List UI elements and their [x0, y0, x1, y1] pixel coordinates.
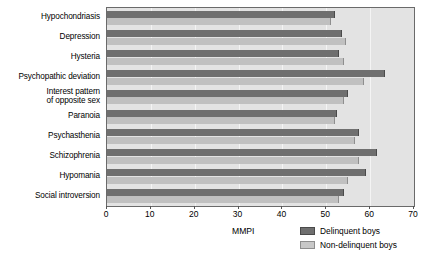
x-tick-label: 10 — [138, 209, 162, 220]
x-axis: 010203040506070 — [106, 206, 414, 222]
bar-non-delinquent — [107, 196, 339, 203]
category-label: Depression — [60, 32, 100, 41]
bar-non-delinquent — [107, 117, 335, 124]
x-tick-label: 20 — [182, 209, 206, 220]
bar-non-delinquent — [107, 177, 348, 184]
legend-swatch-icon — [300, 241, 315, 249]
bar-delinquent — [107, 11, 335, 18]
x-axis-title: MMPI — [232, 226, 254, 236]
legend-item: Delinquent boys — [300, 224, 425, 238]
category-label: Social introversion — [35, 191, 100, 200]
bar-delinquent — [107, 90, 348, 97]
mmpi-bar-chart: HypochondriasisDepressionHysteriaPsychop… — [0, 0, 425, 259]
category-label: Hypochondriasis — [41, 12, 100, 21]
bar-delinquent — [107, 169, 366, 176]
plot-area — [106, 7, 415, 207]
bar-non-delinquent — [107, 157, 359, 164]
category-label: Hysteria — [71, 52, 100, 61]
bar-non-delinquent — [107, 58, 344, 65]
bar-non-delinquent — [107, 137, 355, 144]
legend-swatch-icon — [300, 227, 315, 235]
category-axis-labels: HypochondriasisDepressionHysteriaPsychop… — [0, 7, 103, 205]
x-tick-label: 50 — [313, 209, 337, 220]
legend-label: Non-delinquent boys — [320, 240, 397, 250]
bar-delinquent — [107, 50, 339, 57]
x-tick-label: 60 — [357, 209, 381, 220]
legend-label: Delinquent boys — [320, 226, 380, 236]
category-label: Paranoia — [68, 111, 100, 120]
bar-delinquent — [107, 189, 344, 196]
bar-delinquent — [107, 70, 385, 77]
x-tick-label: 0 — [94, 209, 118, 220]
category-label: Schizophrenia — [49, 151, 100, 160]
x-tick-label: 40 — [269, 209, 293, 220]
category-label: Psychopathic deviation — [18, 72, 100, 81]
bar-delinquent — [107, 149, 377, 156]
bar-non-delinquent — [107, 78, 364, 85]
legend-item: Non-delinquent boys — [300, 238, 425, 252]
category-label: Hypomania — [59, 171, 100, 180]
bar-non-delinquent — [107, 97, 344, 104]
legend: Delinquent boysNon-delinquent boys — [300, 224, 425, 252]
x-tick-label: 70 — [401, 209, 425, 220]
category-label: Psychasthenia — [48, 131, 100, 140]
bar-delinquent — [107, 30, 342, 37]
category-label: Interest pattern of opposite sex — [46, 87, 100, 105]
bar-non-delinquent — [107, 18, 331, 25]
plot-inner — [107, 8, 414, 206]
bar-delinquent — [107, 110, 337, 117]
x-tick-label: 30 — [226, 209, 250, 220]
bar-delinquent — [107, 129, 359, 136]
gridline — [370, 8, 371, 206]
bar-non-delinquent — [107, 38, 346, 45]
